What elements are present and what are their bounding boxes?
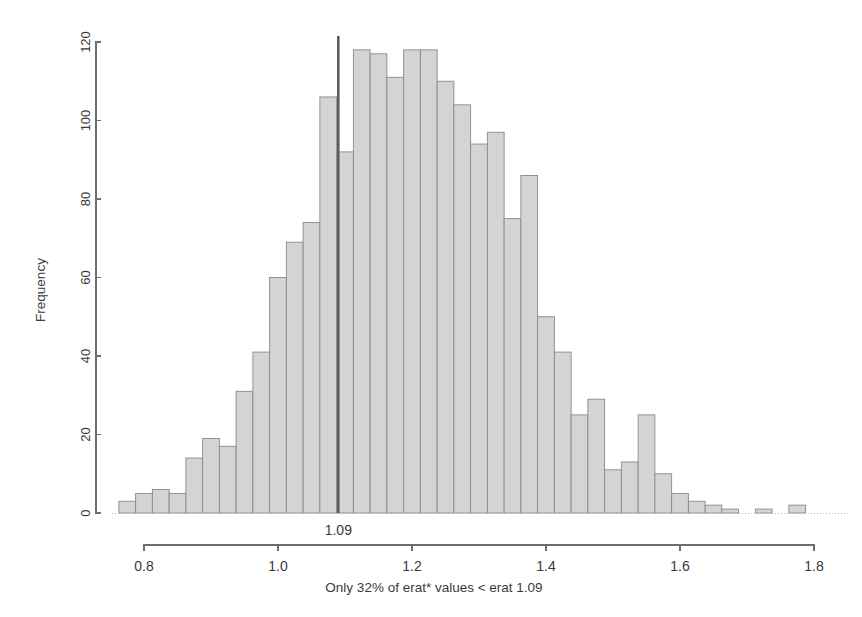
histogram-bar (286, 242, 303, 513)
histogram-bar (270, 278, 287, 514)
x-axis-tick-label: 1.8 (804, 558, 824, 574)
histogram-bar (236, 391, 253, 513)
x-axis-title: Only 32% of erat* values < erat 1.09 (325, 580, 542, 595)
histogram-bar (672, 493, 689, 513)
x-axis: 0.81.01.21.41.61.8 (134, 545, 824, 574)
histogram-bar (755, 509, 772, 513)
x-axis-line (144, 545, 814, 551)
histogram-bar (169, 493, 186, 513)
y-axis-tick-label: 100 (78, 110, 93, 132)
histogram-bar (621, 462, 638, 513)
histogram-bar (303, 223, 320, 513)
x-axis-tick-label: 1.4 (536, 558, 556, 574)
y-axis-tick-label: 120 (78, 31, 93, 53)
histogram-bar (136, 493, 153, 513)
histogram-bar (538, 317, 555, 513)
histogram-bar (554, 352, 571, 513)
histogram-bar (789, 505, 806, 513)
histogram-bar (655, 474, 672, 513)
histogram-bar (219, 446, 236, 513)
histogram-bar (705, 505, 722, 513)
histogram-bar (722, 509, 739, 513)
y-axis-tick-label: 80 (78, 192, 93, 206)
histogram-bar (605, 470, 622, 513)
histogram-bar (186, 458, 203, 513)
histogram-bar (353, 50, 370, 513)
histogram-bar (420, 50, 437, 513)
histogram-bar (471, 144, 488, 513)
histogram-bar (638, 415, 655, 513)
reference-line-label: 1.09 (325, 522, 352, 538)
x-axis-tick-label: 1.0 (268, 558, 288, 574)
histogram-bar (152, 489, 169, 513)
histogram-bar (370, 54, 387, 513)
histogram-bar (504, 219, 521, 513)
histogram-bar (571, 415, 588, 513)
y-axis-tick-label: 20 (78, 427, 93, 441)
y-axis-tick-label: 40 (78, 349, 93, 363)
histogram-bar (387, 77, 404, 513)
x-axis-tick-label: 1.6 (670, 558, 690, 574)
y-axis-tick-label: 0 (78, 509, 93, 516)
histogram-bar (487, 132, 504, 513)
x-axis-tick-label: 0.8 (134, 558, 154, 574)
histogram-bar (119, 501, 136, 513)
histogram-bar (253, 352, 270, 513)
x-axis-tick-label: 1.2 (402, 558, 422, 574)
histogram-bar (588, 399, 605, 513)
histogram-bar (688, 501, 705, 513)
histogram-bar (203, 438, 220, 513)
histogram-plot-root: 1.09 020406080100120 0.81.01.21.41.61.8 … (0, 0, 862, 617)
histogram-bar (521, 175, 538, 513)
histogram-bars (119, 50, 806, 513)
histogram-bar (437, 81, 454, 513)
histogram-chart: 1.09 020406080100120 0.81.01.21.41.61.8 … (0, 0, 862, 617)
y-axis-tick-label: 60 (78, 270, 93, 284)
histogram-bar (320, 97, 337, 513)
y-axis: 020406080100120 (78, 31, 101, 516)
histogram-bar (454, 105, 471, 513)
y-axis-title: Frequency (33, 258, 48, 322)
histogram-bar (404, 50, 421, 513)
